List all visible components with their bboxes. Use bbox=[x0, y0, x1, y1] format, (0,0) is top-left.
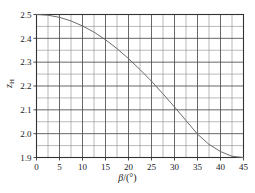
x-tick-label: 10 bbox=[78, 162, 88, 172]
chart-plot-area: 051015202530354045 1.92.02.12.22.32.42.5 bbox=[0, 0, 255, 193]
x-tick-label: 35 bbox=[193, 162, 203, 172]
x-tick-label: 30 bbox=[170, 162, 180, 172]
x-axis-label-unit: /(°) bbox=[123, 172, 136, 183]
y-axis-label-wrapper: zH bbox=[0, 68, 16, 108]
y-tick-label: 2.3 bbox=[20, 57, 32, 67]
x-tick-label: 15 bbox=[101, 162, 111, 172]
y-tick-label: 2.2 bbox=[20, 81, 31, 91]
x-tick-label: 5 bbox=[57, 162, 62, 172]
y-tick-label: 2.0 bbox=[20, 129, 32, 139]
y-tick-label: 1.9 bbox=[20, 153, 32, 163]
y-tick-label: 2.4 bbox=[20, 34, 32, 44]
x-tick-label: 45 bbox=[239, 162, 249, 172]
y-tick-label: 2.5 bbox=[20, 10, 32, 20]
x-tick-label: 0 bbox=[34, 162, 39, 172]
x-tick-label: 25 bbox=[147, 162, 157, 172]
x-axis-label: β/(°) bbox=[0, 172, 255, 183]
x-tick-label: 20 bbox=[124, 162, 134, 172]
tick-marks bbox=[34, 15, 244, 161]
y-axis-label-subscript: H bbox=[8, 79, 16, 84]
y-tick-label: 2.1 bbox=[20, 105, 31, 115]
x-tick-label: 40 bbox=[216, 162, 226, 172]
chart-figure: 051015202530354045 1.92.02.12.22.32.42.5… bbox=[0, 0, 255, 193]
y-axis-label-symbol: z bbox=[3, 84, 14, 88]
y-tick-labels: 1.92.02.12.22.32.42.5 bbox=[20, 10, 32, 163]
y-axis-label: zH bbox=[3, 64, 14, 104]
x-tick-labels: 051015202530354045 bbox=[34, 162, 248, 172]
